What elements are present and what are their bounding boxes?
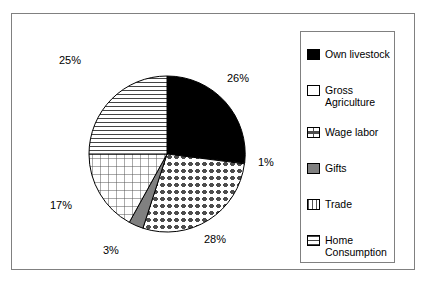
legend-swatch-fine-grid-icon <box>307 199 320 210</box>
legend-item-trade[interactable]: Trade <box>307 198 352 210</box>
pie-data-label-own-livestock: 26% <box>227 73 249 84</box>
pie-data-label-wage-labor: 28% <box>204 234 226 245</box>
legend-label-gross-agriculture: Gross Agriculture <box>325 84 375 108</box>
pie-data-label-gifts: 3% <box>103 245 119 256</box>
pie-slice-home-consumption <box>89 76 167 154</box>
pie-slice-own-livestock <box>167 76 245 163</box>
legend-swatch-solid-black-icon <box>307 49 320 60</box>
pie-data-label-home-consumption: 25% <box>59 55 81 66</box>
legend-item-own-livestock[interactable]: Own livestock <box>307 48 390 60</box>
legend-item-home-consumption[interactable]: Home Consumption <box>307 234 387 258</box>
legend-label-trade: Trade <box>325 198 352 210</box>
legend-swatch-solid-gray-icon <box>307 163 320 174</box>
legend-label-gifts: Gifts <box>325 162 347 174</box>
legend-label-own-livestock: Own livestock <box>325 48 390 60</box>
legend-label-home-consumption: Home Consumption <box>325 234 387 258</box>
pie-svg <box>12 14 300 271</box>
pie-chart-figure: 26% 1% 28% 3% 17% 25% Own livestock Gros… <box>0 0 426 283</box>
legend-item-gross-agriculture[interactable]: Gross Agriculture <box>307 84 375 108</box>
legend-item-gifts[interactable]: Gifts <box>307 162 347 174</box>
legend-swatch-horizontal-lines-icon <box>307 235 320 246</box>
legend-swatch-solid-white-icon <box>307 85 320 96</box>
legend-swatch-diamond-dots-icon <box>307 127 320 138</box>
legend-label-wage-labor: Wage labor <box>325 126 378 138</box>
pie-data-label-trade: 17% <box>50 200 72 211</box>
chart-frame: 26% 1% 28% 3% 17% 25% Own livestock Gros… <box>11 13 415 270</box>
chart-legend: Own livestock Gross Agriculture Wage lab… <box>300 31 395 263</box>
pie-data-label-gross-agriculture: 1% <box>258 157 274 168</box>
pie-plot-area: 26% 1% 28% 3% 17% 25% <box>12 14 300 271</box>
legend-item-wage-labor[interactable]: Wage labor <box>307 126 378 138</box>
